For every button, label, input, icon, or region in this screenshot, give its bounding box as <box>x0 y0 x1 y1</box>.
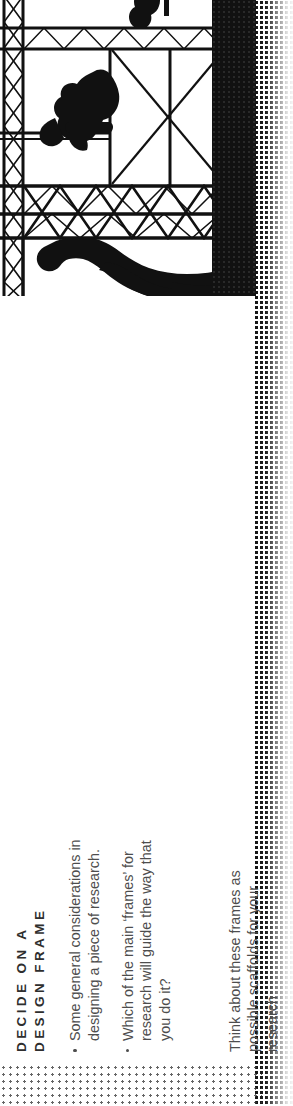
rotated-text-stage: DECIDE ON A DESIGN FRAME Some general co… <box>0 0 293 1106</box>
section-spacer <box>190 12 226 1052</box>
page-root: DECIDE ON A DESIGN FRAME Some general co… <box>0 0 293 1106</box>
page-title: DECIDE ON A DESIGN FRAME <box>13 12 49 1052</box>
frames-intro-text: Think about these frames as possible sca… <box>226 837 282 1052</box>
list-item: Which of the main ‘frames’ for research … <box>119 826 175 1052</box>
considerations-list: Some general considerations in designing… <box>66 12 175 1052</box>
research-frames-list: action research case study comparative r… <box>292 12 293 1052</box>
list-item: Some general considerations in designing… <box>66 826 103 1052</box>
bottom-halftone-band <box>0 1064 262 1106</box>
list-item: action research <box>292 12 293 1038</box>
text-column: DECIDE ON A DESIGN FRAME Some general co… <box>13 12 293 1052</box>
